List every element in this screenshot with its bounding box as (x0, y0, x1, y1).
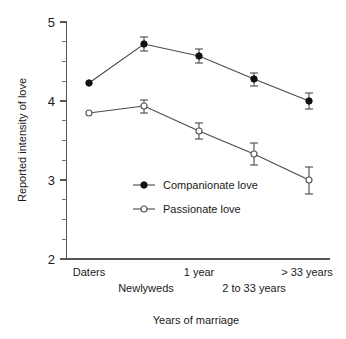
legend-entry-companionate: Companionate love (133, 179, 258, 191)
data-point (251, 76, 257, 82)
data-point (251, 151, 257, 157)
chart-container: 5 4 3 2 Reported intensity of love (0, 0, 346, 339)
y-axis-title: Reported intensity of love (16, 78, 28, 202)
x-tick-label-daters: Daters (73, 266, 106, 278)
data-point (196, 128, 202, 134)
x-tick-label-2-to-33-years: 2 to 33 years (222, 282, 286, 294)
y-tick-label-5: 5 (48, 15, 55, 30)
chart-legend: Companionate love Passionate love (133, 179, 258, 215)
series-line-passionate (89, 106, 309, 180)
data-points-passionate (86, 103, 312, 183)
data-point (141, 41, 147, 47)
data-point (141, 103, 147, 109)
data-point (86, 80, 92, 86)
legend-marker-open-circle-icon (141, 206, 147, 212)
error-bars-companionate (140, 37, 313, 109)
legend-label-companionate: Companionate love (163, 179, 258, 191)
legend-label-passionate: Passionate love (163, 203, 241, 215)
y-tick-label-3: 3 (48, 173, 55, 188)
y-tick-label-4: 4 (48, 94, 55, 109)
x-tick-label-gt-33-years: > 33 years (281, 266, 333, 278)
legend-entry-passionate: Passionate love (133, 203, 241, 215)
data-point (306, 177, 312, 183)
x-tick-label-newlyweds: Newlyweds (118, 282, 174, 294)
x-axis-title: Years of marriage (153, 314, 239, 326)
x-tick-label-1-year: 1 year (184, 266, 215, 278)
line-chart: 5 4 3 2 Reported intensity of love (0, 0, 346, 339)
data-point (86, 110, 92, 116)
data-point (196, 53, 202, 59)
y-tick-label-2: 2 (48, 252, 55, 267)
legend-marker-filled-circle-icon (141, 182, 147, 188)
data-point (306, 98, 312, 104)
